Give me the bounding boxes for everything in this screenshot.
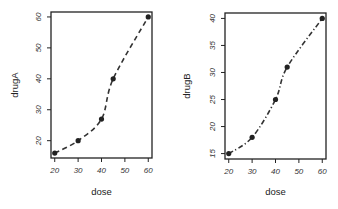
data-point-marker xyxy=(320,16,325,21)
plot-panel-drugA: 20304050602030405060dosedrugA xyxy=(9,12,153,197)
data-point-marker xyxy=(273,97,278,102)
data-point-marker xyxy=(226,151,231,156)
y-tick-label: 15 xyxy=(208,149,217,158)
plot-frame xyxy=(51,12,152,158)
x-tick-label: 30 xyxy=(248,167,257,176)
y-tick-label: 20 xyxy=(34,136,43,146)
x-tick-label: 20 xyxy=(49,166,59,175)
y-tick-label: 60 xyxy=(34,12,43,21)
data-point-marker xyxy=(111,76,116,81)
x-tick-label: 30 xyxy=(74,166,83,175)
x-tick-label: 20 xyxy=(223,167,233,176)
data-point-marker xyxy=(146,14,151,19)
x-tick-label: 60 xyxy=(318,167,327,176)
y-tick-label: 25 xyxy=(208,95,217,105)
series-line xyxy=(55,17,149,153)
y-axis-title: drugA xyxy=(9,72,20,98)
x-axis-title: dose xyxy=(91,186,112,197)
y-tick-label: 40 xyxy=(208,13,217,22)
y-tick-label: 30 xyxy=(208,67,217,76)
y-axis-title: drugB xyxy=(181,73,192,98)
data-point-marker xyxy=(285,64,290,69)
series-line xyxy=(229,18,323,153)
data-point-marker xyxy=(52,150,57,155)
x-tick-label: 60 xyxy=(144,166,153,175)
plot-panel-drugB: 2030405060152025303540dosedrugB xyxy=(181,13,327,197)
y-tick-label: 20 xyxy=(208,122,217,132)
data-point-marker xyxy=(76,138,81,143)
y-tick-label: 30 xyxy=(34,105,43,114)
y-tick-label: 35 xyxy=(208,40,217,49)
x-tick-label: 40 xyxy=(97,166,106,175)
y-tick-label: 40 xyxy=(34,74,43,83)
x-tick-label: 50 xyxy=(120,166,129,175)
y-tick-label: 50 xyxy=(34,43,43,52)
data-point-marker xyxy=(99,116,104,121)
x-tick-label: 50 xyxy=(294,167,303,176)
data-point-marker xyxy=(250,135,255,140)
x-tick-label: 40 xyxy=(271,167,280,176)
chart-canvas: 20304050602030405060dosedrugA20304050601… xyxy=(0,0,338,209)
plot-frame xyxy=(225,13,326,159)
x-axis-title: dose xyxy=(265,186,286,197)
